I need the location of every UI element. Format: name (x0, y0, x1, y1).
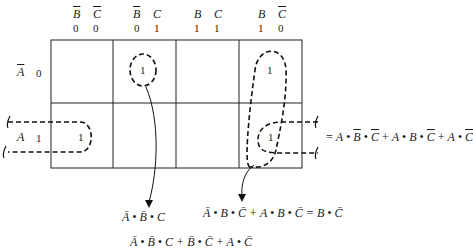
arrow-single (146, 87, 156, 202)
expression-pair-group: Ā • B • C̄ + A • B • C̄ = B • C̄ (203, 207, 342, 219)
col1-var-b: B (133, 8, 140, 20)
col2-bit-2: 1 (214, 22, 220, 34)
row0-var-a: A (17, 66, 24, 78)
cell-r0-c3: 1 (267, 65, 273, 76)
col2-var-c: C (214, 8, 222, 20)
col0-var-c: C (93, 8, 101, 20)
col0-var-b: B (73, 8, 80, 20)
cell-r0-c1: 1 (140, 65, 146, 76)
arrow-pair (242, 165, 254, 196)
break-mark (3, 146, 6, 158)
row1-var-a: A (17, 131, 24, 143)
cell-r1-c0: 1 (78, 132, 84, 143)
kmap-grid (51, 40, 302, 168)
arrowhead-icon (145, 200, 153, 208)
expression-single-group: Ā • B̄ • C (122, 211, 165, 223)
cell-r1-c3: 1 (268, 132, 274, 143)
row0-bit: 0 (36, 67, 42, 79)
col0-bit-1: 0 (73, 22, 79, 34)
col1-var-c: C (153, 8, 161, 20)
group-loop-wrap-right (258, 122, 318, 153)
col2-var-b: B (194, 8, 201, 20)
expression-bottom-partial: Ā • B̄ • C + B̄ • C̄ + A • C̄ (130, 236, 252, 248)
col1-bit-2: 1 (154, 22, 160, 34)
col2-bit-1: 1 (194, 22, 200, 34)
row1-bit: 1 (36, 132, 42, 144)
col0-bit-2: 0 (93, 22, 99, 34)
arrowhead-icon (238, 194, 246, 202)
col3-var-b: B (258, 8, 265, 20)
expression-row-a-group: =A•B•C+A•B•C+A•C (323, 131, 473, 143)
col3-bit-2: 0 (278, 22, 284, 34)
col1-bit-1: 0 (134, 22, 140, 34)
col3-bit-1: 1 (258, 22, 264, 34)
col3-var-c: C (278, 8, 286, 20)
